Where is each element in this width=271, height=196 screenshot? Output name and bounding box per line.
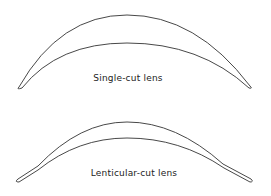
lenticular-cut-lens-label: Lenticular-cut lens	[91, 168, 177, 178]
lens-diagram	[0, 0, 271, 196]
single-cut-lens-label: Single-cut lens	[93, 73, 162, 83]
